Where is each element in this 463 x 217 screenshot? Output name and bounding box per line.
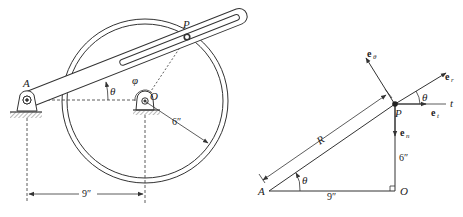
label-radius-6in: 6″: [172, 116, 181, 127]
svg-text:e: e: [431, 107, 436, 118]
label-phi: φ: [132, 74, 138, 86]
left-mechanism-figure: [10, 6, 250, 203]
label-point-p-right: P: [394, 107, 402, 119]
label-distance-9in: 9″: [82, 188, 91, 199]
svg-text:r: r: [451, 76, 454, 84]
svg-text:e: e: [400, 127, 405, 138]
diagram-canvas: A O P θ φ 6″ 9″ A O P R θ θ 6: [0, 0, 463, 217]
theta-arc-right-bottom: [296, 173, 300, 191]
label-theta-top: θ: [422, 91, 428, 103]
label-t-axis: t: [450, 97, 454, 109]
label-point-o-right: O: [400, 185, 408, 197]
label-dim-9in: 9″: [327, 191, 336, 202]
label-pivot-o: O: [150, 90, 158, 102]
label-e-t: e t: [431, 107, 440, 120]
pin-p: [184, 34, 190, 40]
label-pivot-a: A: [22, 77, 30, 89]
label-e-n: e n: [400, 127, 410, 140]
label-theta-left: θ: [110, 85, 116, 97]
label-dim-6in: 6″: [399, 152, 408, 163]
svg-text:n: n: [406, 132, 410, 140]
label-e-theta: e θ: [367, 48, 377, 61]
label-theta-bottom: θ: [302, 174, 308, 186]
svg-text:t: t: [437, 112, 440, 120]
e-theta-vector: [366, 58, 394, 103]
svg-text:θ: θ: [373, 53, 377, 61]
label-point-p: P: [182, 18, 190, 30]
r-dimension-line: [263, 95, 386, 180]
label-e-r: e r: [445, 71, 454, 84]
right-angle-mark: [390, 186, 395, 191]
label-length-r: R: [313, 133, 326, 147]
svg-text:e: e: [445, 71, 450, 82]
slotted-arm: [24, 6, 249, 107]
point-p-dot: [392, 101, 398, 107]
hypotenuse-a-p: [269, 104, 395, 191]
svg-text:e: e: [367, 48, 372, 59]
label-point-a-right: A: [257, 185, 265, 197]
theta-arc-left: [106, 82, 108, 100]
e-r-vector: [395, 73, 446, 104]
right-vector-figure: [259, 58, 446, 191]
theta-arc-right-top: [416, 91, 420, 104]
